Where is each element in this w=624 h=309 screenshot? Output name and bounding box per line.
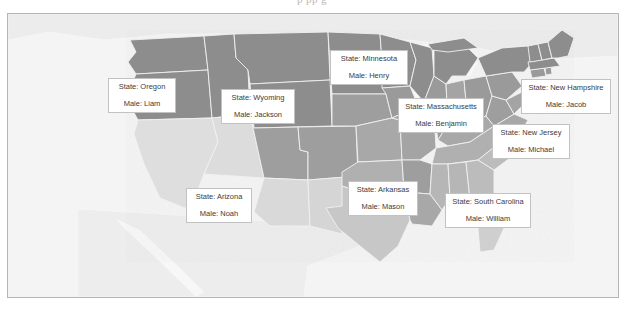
map-label-minnesota[interactable]: State: Minnesota Male: Henry (330, 50, 408, 85)
map-label-new-jersey[interactable]: State: New Jersey Male: Michael (492, 124, 570, 159)
label-state-text: State: New Jersey (499, 129, 563, 137)
label-state-text: State: Oregon (115, 83, 169, 91)
label-state-text: State: South Carolina (452, 198, 524, 206)
label-male-text: Male: Michael (499, 146, 563, 154)
label-male-text: Male: Jacob (528, 101, 604, 109)
label-male-text: Male: Jackson (228, 111, 288, 119)
label-male-text: Male: Liam (115, 100, 169, 108)
map-frame: State: Oregon Male: Liam State: Wyoming … (7, 13, 619, 298)
state-kansas[interactable] (356, 118, 402, 162)
cut-off-title-text: p pp g (297, 0, 327, 5)
label-state-text: State: Arkansas (355, 186, 411, 194)
state-washington[interactable] (128, 36, 208, 74)
map-label-oregon[interactable]: State: Oregon Male: Liam (108, 78, 176, 113)
cut-off-title: p pp g (0, 0, 624, 11)
label-state-text: State: Wyoming (228, 94, 288, 102)
label-male-text: Male: Benjamin (405, 120, 477, 128)
label-state-text: State: New Hampshire (528, 84, 604, 92)
label-state-text: State: Massachusetts (405, 103, 477, 111)
map-label-south-carolina[interactable]: State: South Carolina Male: William (445, 193, 531, 228)
label-male-text: Male: William (452, 215, 524, 223)
state-arizona[interactable] (254, 178, 310, 226)
map-label-arizona[interactable]: State: Arizona Male: Noah (186, 188, 252, 223)
map-label-massachusetts[interactable]: State: Massachusetts Male: Benjamin (398, 98, 484, 133)
map-label-new-hampshire[interactable]: State: New Hampshire Male: Jacob (521, 79, 611, 114)
screenshot-root: p pp g (0, 0, 624, 309)
map-label-arkansas[interactable]: State: Arkansas Male: Mason (348, 181, 418, 216)
map-label-wyoming[interactable]: State: Wyoming Male: Jackson (221, 89, 295, 124)
label-male-text: Male: Mason (355, 203, 411, 211)
label-male-text: Male: Noah (193, 210, 245, 218)
label-male-text: Male: Henry (337, 72, 401, 80)
label-state-text: State: Minnesota (337, 55, 401, 63)
label-state-text: State: Arizona (193, 193, 245, 201)
